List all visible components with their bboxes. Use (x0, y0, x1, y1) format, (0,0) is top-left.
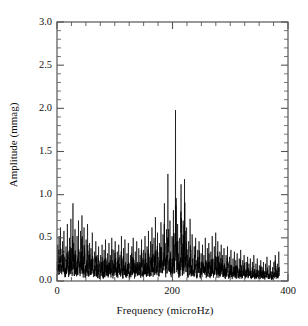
y-tick-label-0.5: 0.5 (26, 231, 52, 242)
x-axis-label-wrapper: Frequency (microHz) (40, 300, 290, 318)
y-tick-label-2.5: 2.5 (26, 59, 52, 70)
y-axis-label: Amplitude (mmag) (7, 103, 19, 188)
y-axis-label-wrapper: Amplitude (mmag) (0, 0, 26, 290)
x-tick-label-0: 0 (47, 285, 67, 296)
y-tick-label-3.0: 3.0 (26, 16, 52, 27)
y-tick-label-2.0: 2.0 (26, 102, 52, 113)
x-tick-label-200: 200 (162, 285, 182, 296)
y-tick-label-1.0: 1.0 (26, 188, 52, 199)
x-tick-label-400: 400 (278, 285, 298, 296)
plot-background (57, 22, 288, 281)
y-tick-label-1.5: 1.5 (26, 145, 52, 156)
y-tick-label-0.0: 0.0 (26, 274, 52, 285)
x-axis-label: Frequency (microHz) (117, 304, 214, 316)
figure-container: Amplitude (mmag) Frequency (microHz) 3.0… (0, 0, 308, 326)
